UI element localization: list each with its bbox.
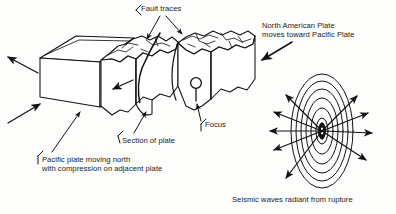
seismic-wave-diagram <box>270 74 372 188</box>
figure-canvas: Fault traces North American Plate moves … <box>0 0 396 214</box>
label-pacific-plate: Pacific plate moving north with compress… <box>42 155 162 174</box>
label-focus: Focus <box>205 120 226 129</box>
label-section-of-plate: Section of plate <box>122 136 175 145</box>
arrow-northeast-pacific-plate <box>8 104 40 123</box>
label-seismic-waves: Seismic waves radiant from rupture <box>232 195 353 204</box>
arrow-northwest-pacific-plate <box>8 57 38 73</box>
label-north-american-plate: North American Plate moves toward Pacifi… <box>262 21 354 40</box>
arrow-north-american-plate <box>262 42 292 60</box>
label-fault-traces: Fault traces <box>141 4 181 13</box>
fault-block-right <box>178 31 255 110</box>
